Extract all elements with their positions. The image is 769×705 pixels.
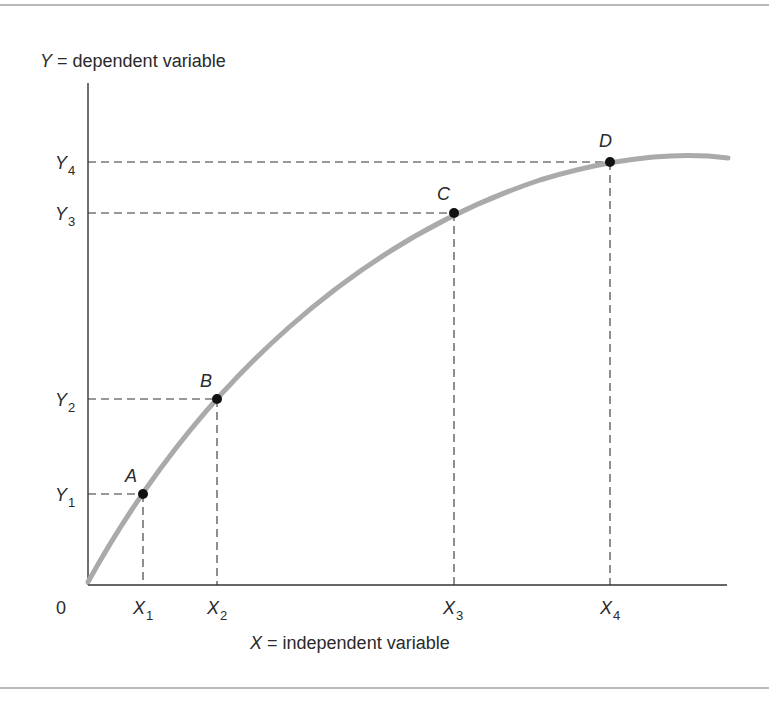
x-tick-x1: X1: [133, 598, 153, 620]
response-curve: [88, 156, 728, 582]
x-tick-x2: X2: [207, 598, 227, 620]
point-a: [138, 489, 148, 499]
x-tick-x4: X4: [600, 598, 620, 620]
point-d: [605, 157, 615, 167]
x-tick-x3: X3: [443, 598, 463, 620]
guide-lines: [88, 162, 610, 585]
x-axis-title: X = independent variable: [250, 633, 450, 653]
point-c: [449, 208, 459, 218]
y-tick-y1: Y1: [55, 485, 75, 507]
y-tick-y2: Y2: [55, 390, 75, 412]
y-tick-y4: Y4: [55, 153, 75, 175]
y-axis-title: Y = dependent variable: [40, 51, 226, 71]
point-b: [212, 394, 222, 404]
origin-label: 0: [56, 598, 66, 618]
point-label-b: B: [200, 371, 212, 391]
point-label-c: C: [437, 184, 450, 204]
point-label-d: D: [599, 131, 612, 151]
y-tick-y3: Y3: [55, 204, 75, 226]
point-label-a: A: [125, 466, 137, 486]
chart-canvas: [0, 0, 769, 705]
